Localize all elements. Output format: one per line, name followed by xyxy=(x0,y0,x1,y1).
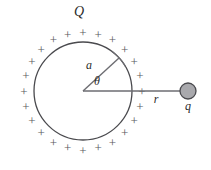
surface-charge-plus: + xyxy=(121,125,128,140)
point-charge-q-dot xyxy=(180,83,196,99)
surface-charge-plus: + xyxy=(136,99,143,114)
surface-charge-plus: + xyxy=(50,32,57,47)
surface-charge-plus: + xyxy=(79,25,86,40)
surface-charge-plus: + xyxy=(130,54,137,69)
surface-charge-plus: + xyxy=(64,140,71,155)
surface-charge-plus: + xyxy=(109,32,116,47)
surface-charge-plus: + xyxy=(79,143,86,158)
label-sphere-radius-a: a xyxy=(86,58,92,72)
surface-charge-plus: + xyxy=(64,27,71,42)
label-total-charge-Q: Q xyxy=(74,4,84,19)
label-angle-theta: θ xyxy=(94,74,100,88)
label-point-charge-q: q xyxy=(185,99,191,113)
diagram-canvas: ++++++++++++++++++++++++ Q a θ r q xyxy=(0,0,211,170)
surface-charge-plus: + xyxy=(136,68,143,83)
label-distance-r: r xyxy=(154,92,159,106)
surface-charge-plus: + xyxy=(95,27,102,42)
surface-charge-plus: + xyxy=(22,68,29,83)
physics-diagram-figure: ++++++++++++++++++++++++ Q a θ r q xyxy=(0,0,211,170)
surface-charge-plus: + xyxy=(20,84,27,99)
surface-charge-plus: + xyxy=(121,42,128,57)
surface-charge-plus: + xyxy=(109,135,116,150)
surface-charge-plus: + xyxy=(38,42,45,57)
surface-charge-plus: + xyxy=(95,140,102,155)
surface-charge-plus: + xyxy=(130,113,137,128)
surface-charge-plus: + xyxy=(28,54,35,69)
surface-charge-plus: + xyxy=(50,135,57,150)
surface-charge-plus: + xyxy=(22,99,29,114)
surface-charge-plus: + xyxy=(28,113,35,128)
surface-charge-plus: + xyxy=(38,125,45,140)
